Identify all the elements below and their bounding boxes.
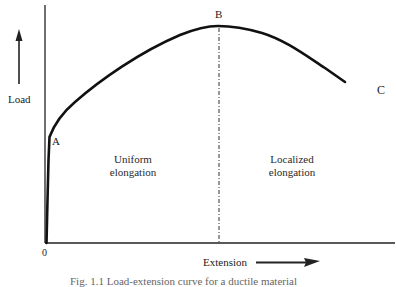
point-c-label: C (377, 84, 385, 96)
figure-caption: Fig. 1.1 Load-extension curve for a duct… (70, 275, 297, 287)
uniform-elongation-line2: elongation (98, 166, 168, 179)
origin-label: 0 (42, 248, 47, 258)
load-extension-curve (47, 26, 346, 243)
localized-elongation-label: Localized elongation (257, 153, 327, 179)
point-a-label: A (52, 136, 60, 147)
localized-elongation-line2: elongation (257, 166, 327, 179)
extension-arrow-head-icon (304, 258, 320, 267)
point-b-label: B (215, 9, 222, 20)
y-axis-label: Load (8, 94, 31, 105)
uniform-elongation-line1: Uniform (98, 153, 168, 166)
uniform-elongation-label: Uniform elongation (98, 153, 168, 179)
load-arrow-head-icon (16, 29, 23, 41)
localized-elongation-line1: Localized (257, 153, 327, 166)
x-axis-label: Extension (203, 257, 247, 268)
